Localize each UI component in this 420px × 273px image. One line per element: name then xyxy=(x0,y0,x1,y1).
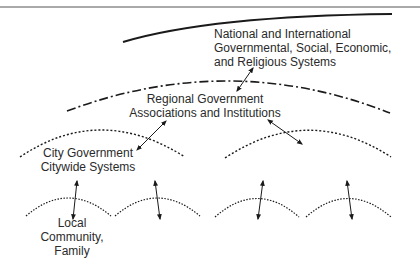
city-label-line-2: Citywide Systems xyxy=(38,160,138,174)
local-label-line-1: Local xyxy=(32,216,112,230)
national-label-line-3: and Religious Systems xyxy=(214,55,391,69)
regional-label: Regional Government Associations and Ins… xyxy=(125,92,285,120)
national-label-line-2: Governmental, Social, Economic, xyxy=(214,41,391,55)
arrow-city-local-1 xyxy=(73,181,77,219)
city-boundary-right-dotted xyxy=(225,130,391,158)
regional-label-line-1: Regional Government xyxy=(125,92,285,106)
arrow-city-local-3 xyxy=(258,181,263,219)
local-boundary-1-dotted xyxy=(26,198,111,216)
national-label-line-1: National and International xyxy=(214,27,391,41)
arrow-national-regional xyxy=(237,68,253,91)
national-label: National and International Governmental,… xyxy=(214,27,391,69)
arrow-city-local-4 xyxy=(347,181,352,219)
city-label: City Government Citywide Systems xyxy=(38,146,138,174)
regional-label-line-2: Associations and Institutions xyxy=(125,106,285,120)
local-boundary-3-dotted xyxy=(215,199,299,218)
city-label-line-1: City Government xyxy=(38,146,138,160)
local-label: Local Community, Family xyxy=(32,216,112,258)
local-boundary-4-dotted xyxy=(306,199,391,218)
local-label-line-3: Family xyxy=(32,244,112,258)
local-label-line-2: Community, xyxy=(32,230,112,244)
arrow-regional-city-left xyxy=(137,121,166,150)
arrow-city-local-2 xyxy=(155,181,160,219)
arrow-regional-city-right xyxy=(268,120,302,144)
